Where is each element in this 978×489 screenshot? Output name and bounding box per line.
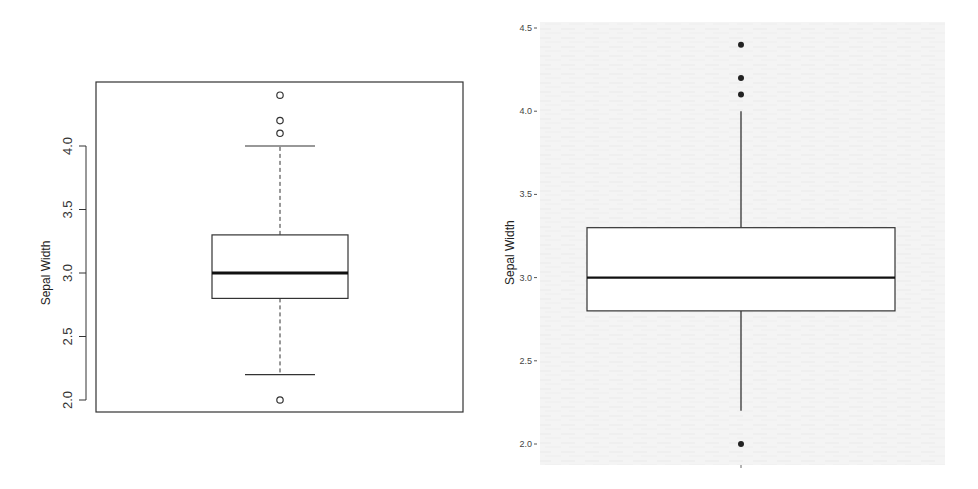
left-boxplot-panel: 2.02.53.03.54.0Sepal Width — [0, 0, 489, 489]
y-tick-label: 3.0 — [519, 273, 532, 283]
right-boxplot-chart: 2.02.53.03.54.04.5Sepal Width — [489, 0, 978, 489]
y-axis-label: Sepal Width — [39, 241, 53, 306]
right-boxplot-panel: 2.02.53.03.54.04.5Sepal Width — [489, 0, 978, 489]
iqr-box — [212, 235, 348, 299]
y-tick-label: 2.0 — [519, 439, 532, 449]
y-axis-label: Sepal Width — [503, 220, 517, 285]
y-tick-label: 2.0 — [60, 391, 75, 409]
y-tick-label: 2.5 — [519, 356, 532, 366]
y-tick-label: 4.0 — [519, 106, 532, 116]
iqr-box — [587, 228, 895, 311]
left-boxplot-chart: 2.02.53.03.54.0Sepal Width — [0, 0, 489, 489]
y-tick-label: 4.0 — [60, 137, 75, 155]
y-tick-label: 4.5 — [519, 23, 532, 33]
y-tick-label: 3.5 — [60, 200, 75, 218]
y-tick-label: 2.5 — [60, 327, 75, 345]
outlier-point — [738, 92, 744, 98]
outlier-point — [738, 441, 744, 447]
outlier-point — [738, 42, 744, 48]
y-tick-label: 3.5 — [519, 189, 532, 199]
outlier-point — [738, 75, 744, 81]
y-tick-label: 3.0 — [60, 264, 75, 282]
